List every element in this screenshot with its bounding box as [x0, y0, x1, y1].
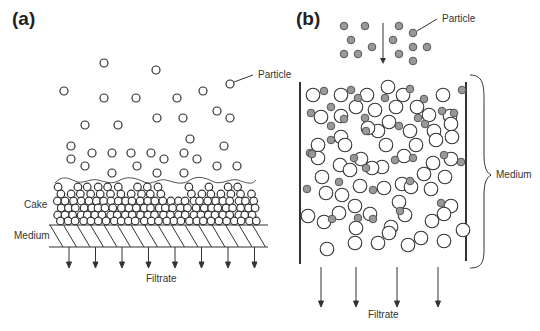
medium-grains: [301, 80, 470, 256]
cake-label: Cake: [24, 199, 48, 210]
panel-b-label: (b): [296, 8, 320, 29]
panel-b: (b) Particle Medium Filtra: [296, 8, 532, 320]
trapped-particles: [303, 85, 466, 223]
cake-layer: [54, 183, 261, 225]
medium-brace: [470, 75, 491, 268]
panel-a: (a) Particle Cake M: [12, 8, 292, 284]
medium-label-a: Medium: [14, 230, 50, 241]
flow-arrow-in: [380, 23, 386, 64]
filtrate-label-b: Filtrate: [368, 309, 399, 320]
filtrate-label-a: Filtrate: [146, 273, 177, 284]
filtrate-arrows-a: [67, 247, 258, 268]
particle-callout-b: Particle: [409, 13, 476, 37]
particle-label-b: Particle: [442, 13, 476, 24]
filter-medium-a: [49, 225, 268, 247]
medium-label-b: Medium: [496, 169, 532, 180]
cake-surface-line: [55, 177, 256, 183]
filtration-diagram: (a) Particle Cake M: [0, 0, 540, 331]
particle-label-a: Particle: [258, 69, 292, 80]
panel-a-label: (a): [12, 8, 35, 29]
filtrate-arrows-b: [319, 267, 441, 307]
suspended-particles-a: [60, 59, 241, 177]
particle-callout-a: Particle: [226, 69, 292, 88]
